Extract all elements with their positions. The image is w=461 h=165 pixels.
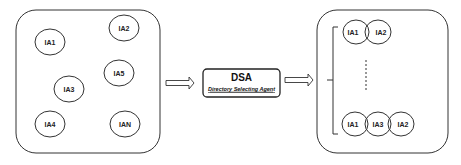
agent-label: IA3 <box>64 86 75 93</box>
agent-label: IA2 <box>119 25 130 32</box>
agent-group-top: IA1 IA2 <box>343 20 391 44</box>
agent-label: IA2 <box>398 121 409 128</box>
agent-label: IA5 <box>114 70 125 77</box>
dsa-title: DSA <box>231 72 252 83</box>
agent-label: IAN <box>119 121 131 128</box>
arrow-right-icon <box>285 74 313 86</box>
agent-pool: IA1 IA2 IA5 IA3 IA4 IAN <box>35 15 140 137</box>
agent-label: IA4 <box>45 121 56 128</box>
dsa-subtitle: Directory Selecting Agent <box>208 86 276 92</box>
agent-label: IA1 <box>348 29 359 36</box>
agent-node-ia1: IA1 <box>35 29 65 55</box>
agent-group-bottom: IA1 IA3 IA2 <box>342 112 414 136</box>
agent-node-ian: IAN <box>110 111 140 137</box>
dsa-agent-box: DSA Directory Selecting Agent <box>203 69 280 97</box>
agent-label: IA1 <box>45 39 56 46</box>
agent-label: IA2 <box>376 29 387 36</box>
agent-node-ia2: IA2 <box>109 15 139 41</box>
dsa-diagram: IA1 IA2 IA5 IA3 IA4 IAN DSA Directory Se… <box>0 0 461 165</box>
agent-label: IA1 <box>348 121 359 128</box>
agent-node-ia4: IA4 <box>35 111 65 137</box>
agent-node-ia3: IA3 <box>54 76 84 102</box>
arrow-right-icon <box>166 77 194 89</box>
agent-label: IA3 <box>373 121 384 128</box>
agent-node-ia5: IA5 <box>104 60 134 86</box>
grouping-bracket <box>327 27 338 134</box>
